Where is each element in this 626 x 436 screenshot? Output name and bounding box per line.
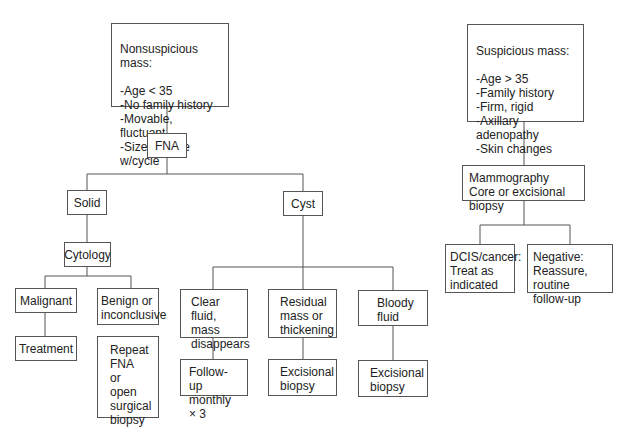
nonsuspicious-mass-box: Nonsuspicious mass: -Age < 35 -No family… <box>111 23 229 107</box>
suspicious-title: Suspicious mass: <box>476 44 575 58</box>
residual-mass-box: Residual mass or thickening <box>268 289 337 338</box>
negative-box: Negative: Reassure, routine follow-up <box>527 244 613 293</box>
solid-box: Solid <box>67 190 107 215</box>
bloody-fluid-box: Bloody fluid <box>358 290 428 326</box>
malignant-box: Malignant <box>15 288 77 313</box>
mammography-box: Mammography Core or excisional biopsy <box>462 165 585 201</box>
cytology-box: Cytology <box>64 242 111 267</box>
cyst-box: Cyst <box>283 191 323 216</box>
dcis-cancer-box: DCIS/cancer: Treat as indicated <box>445 244 515 293</box>
clear-fluid-box: Clear fluid, mass disappears <box>180 289 248 338</box>
repeat-fna-box: Repeat FNA or open surgical biopsy <box>97 336 159 418</box>
benign-inconclusive-box: Benign or inconclusive <box>97 288 159 325</box>
nonsuspicious-title: Nonsuspicious mass: <box>120 42 220 70</box>
excisional-biopsy-box-2: Excisional biopsy <box>358 360 428 397</box>
fna-box: FNA <box>147 133 187 158</box>
suspicious-mass-box: Suspicious mass: -Age > 35 -Family histo… <box>467 24 584 122</box>
follow-up-box: Follow-up monthly × 3 <box>180 359 248 396</box>
excisional-biopsy-box-1: Excisional biopsy <box>268 359 337 396</box>
suspicious-criteria: -Age > 35 -Family history -Firm, rigid -… <box>476 72 575 156</box>
treatment-box: Treatment <box>15 336 77 361</box>
